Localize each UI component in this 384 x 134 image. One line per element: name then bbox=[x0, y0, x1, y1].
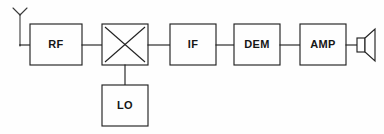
speaker-icon bbox=[357, 29, 375, 61]
block-dem-label: DEM bbox=[244, 38, 270, 50]
block-dem[interactable]: DEM bbox=[234, 24, 280, 65]
block-amp[interactable]: AMP bbox=[300, 24, 346, 65]
block-rf[interactable]: RF bbox=[30, 24, 82, 65]
block-mixer[interactable] bbox=[102, 24, 148, 65]
block-rf-label: RF bbox=[48, 38, 63, 50]
block-if-label: IF bbox=[188, 38, 199, 50]
block-amp-label: AMP bbox=[310, 38, 336, 50]
receiver-block-diagram: RF LO IF bbox=[0, 0, 384, 134]
block-if[interactable]: IF bbox=[170, 24, 216, 65]
block-lo-label: LO bbox=[117, 99, 133, 111]
block-lo[interactable]: LO bbox=[102, 85, 148, 126]
diagram-canvas: RF LO IF bbox=[0, 0, 384, 134]
antenna-icon bbox=[13, 8, 27, 46]
